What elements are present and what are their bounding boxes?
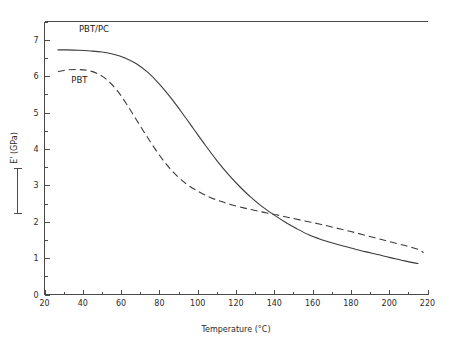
x-tick-label: 200 — [382, 299, 397, 308]
y-tick-label: 7 — [33, 36, 38, 45]
x-tick-label: 160 — [305, 299, 320, 308]
x-tick-label: 180 — [343, 299, 358, 308]
x-tick-label: 140 — [267, 299, 282, 308]
series-line-pbt-pc — [58, 50, 418, 264]
y-tick-label: 5 — [33, 109, 38, 118]
x-tick-label: 60 — [116, 299, 126, 308]
plot-frame — [45, 22, 428, 295]
x-tick-label: 20 — [39, 299, 49, 308]
series-line-pbt — [58, 70, 424, 253]
data-curves — [58, 50, 424, 264]
x-tick-label: 120 — [228, 299, 243, 308]
x-tick-label: 40 — [78, 299, 88, 308]
y-axis-title: E' (GPa) — [10, 132, 19, 164]
y-axis-bracket-icon — [14, 169, 22, 214]
x-axis-ticks: 20406080100120140160180200220 — [39, 290, 435, 308]
y-tick-label: 6 — [33, 72, 38, 81]
y-axis-ticks: 01234567 — [33, 23, 49, 300]
chart-figure: 20406080100120140160180200220 01234567 P… — [0, 0, 451, 343]
y-tick-label: 3 — [33, 181, 38, 190]
y-tick-label: 2 — [33, 218, 38, 227]
y-tick-label: 4 — [33, 145, 38, 154]
x-tick-label: 220 — [420, 299, 435, 308]
x-tick-label: 80 — [154, 299, 164, 308]
chart-svg: 20406080100120140160180200220 01234567 P… — [0, 0, 451, 343]
y-tick-label: 1 — [33, 254, 38, 263]
series-label-pbt: PBT — [71, 75, 88, 85]
y-tick-label: 0 — [33, 291, 38, 300]
x-axis-title: Temperature (°C) — [200, 325, 270, 334]
x-tick-label: 100 — [190, 299, 205, 308]
series-label-pbt-pc: PBT/PC — [79, 24, 109, 34]
